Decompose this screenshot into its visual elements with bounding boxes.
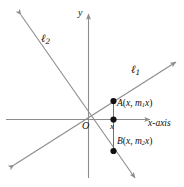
origin-label: O <box>82 121 89 131</box>
line-ell1-segment <box>14 62 176 165</box>
line-ell2-segment <box>21 15 135 178</box>
line-label-ell2: ℓ2 <box>41 33 50 45</box>
line-label-ell1: ℓ1 <box>131 64 140 76</box>
point-A-dot <box>110 98 116 104</box>
figure-canvas <box>0 0 184 187</box>
line-ell2 <box>21 15 135 178</box>
point-B-dot <box>110 148 116 154</box>
geometry-figure: ℓ1 ℓ2 y x-axis O x A(x, m1x) B(x, m2x) <box>0 0 184 187</box>
x-axis-label: x-axis <box>148 119 171 129</box>
y-axis-label: y <box>78 8 82 18</box>
line-ell1 <box>14 62 176 165</box>
point-B-label: B(x, m2x) <box>117 137 152 147</box>
point-A-label: A(x, m1x) <box>117 99 152 109</box>
point-x-label: x <box>110 122 114 131</box>
